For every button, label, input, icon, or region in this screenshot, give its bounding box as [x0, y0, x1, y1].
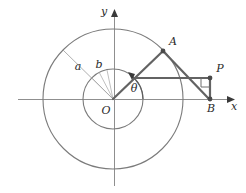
point-label-b: B [206, 102, 215, 115]
vertex-dot-a [161, 49, 166, 54]
geometry-figure: y x O a b θ A P B [0, 0, 246, 193]
x-axis-label: x [231, 100, 238, 113]
vertex-dot-p [208, 76, 213, 81]
radius-label-a: a [75, 60, 82, 73]
radius-line-b-2 [99, 72, 113, 99]
origin-label: O [101, 104, 110, 117]
point-label-a: A [168, 35, 177, 48]
point-label-p: P [215, 62, 224, 75]
vertex-dot-b [208, 97, 213, 102]
radius-line-b-1 [92, 78, 113, 99]
y-axis-arrow-icon [111, 9, 118, 17]
radius-line-b-3 [107, 70, 113, 99]
radius-label-b: b [95, 58, 102, 71]
y-axis-label: y [100, 5, 108, 18]
segment-oa [113, 51, 163, 99]
theta-label: θ [131, 82, 138, 95]
segment-ab [163, 51, 210, 100]
construction-group [113, 51, 210, 100]
radius-leaders-group [63, 50, 113, 99]
geometry-canvas: y x O a b θ A P B [0, 0, 246, 193]
axes-group [18, 9, 235, 186]
labels-group: y x O a b θ A P B [75, 5, 238, 117]
